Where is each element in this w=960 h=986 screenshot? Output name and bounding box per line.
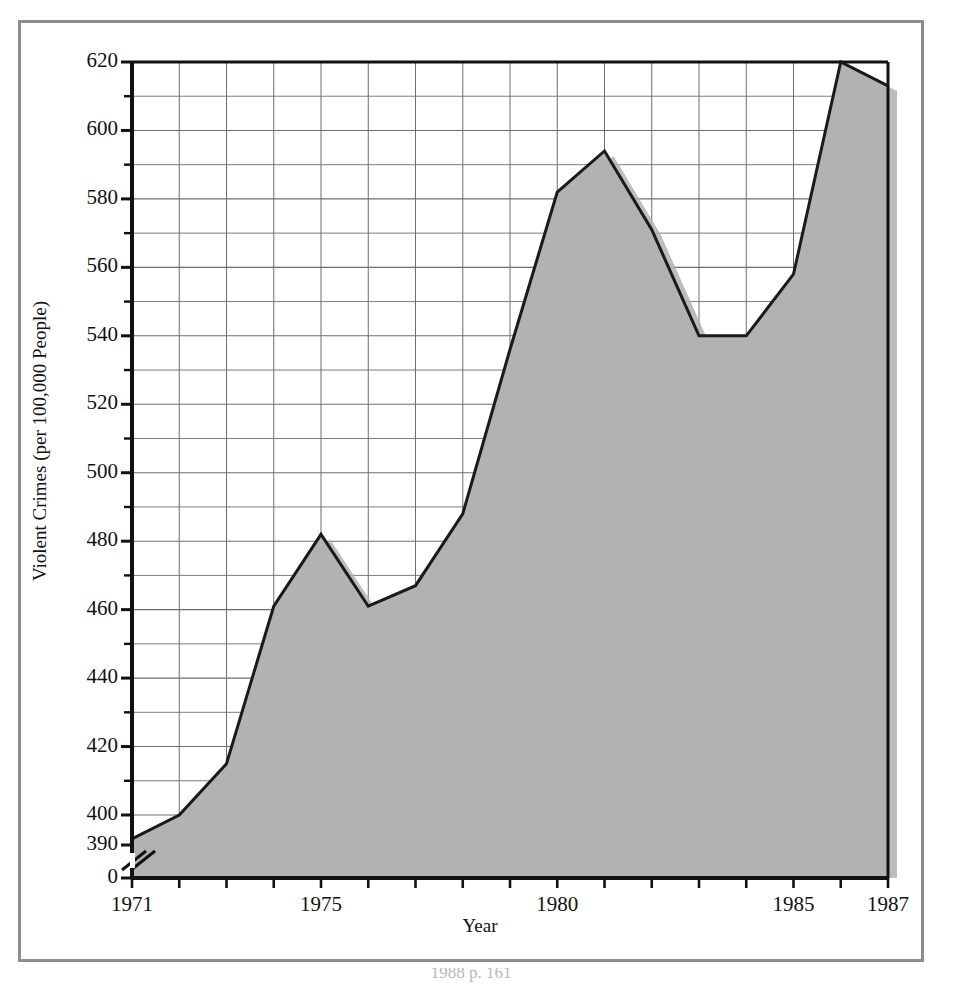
x-tick-label: 1985 xyxy=(739,892,849,917)
y-tick-label: 480 xyxy=(50,527,118,552)
caption-strip: 1988 p. 161 xyxy=(18,968,924,986)
y-tick-label: 540 xyxy=(50,322,118,347)
x-tick-label: 1987 xyxy=(833,892,943,917)
y-tick-label: 420 xyxy=(50,733,118,758)
y-axis-title: Violent Crimes (per 100,000 People) xyxy=(29,231,51,651)
y-tick-label: 0 xyxy=(50,864,118,889)
x-axis-title: Year xyxy=(0,915,960,937)
y-tick-label: 520 xyxy=(50,390,118,415)
y-tick-label: 390 xyxy=(50,831,118,856)
y-tick-label: 500 xyxy=(50,459,118,484)
x-tick-label: 1971 xyxy=(77,892,187,917)
violent-crimes-area-chart xyxy=(0,0,960,986)
y-tick-label: 620 xyxy=(50,48,118,73)
y-tick-label: 600 xyxy=(50,116,118,141)
caption-text: 1988 p. 161 xyxy=(18,968,924,978)
y-tick-label: 440 xyxy=(50,664,118,689)
x-tick-label: 1975 xyxy=(266,892,376,917)
y-tick-label: 400 xyxy=(50,801,118,826)
y-tick-label: 560 xyxy=(50,253,118,278)
y-tick-label: 460 xyxy=(50,596,118,621)
y-tick-label: 580 xyxy=(50,185,118,210)
chart-area: 6206005805605405205004804604404204003900… xyxy=(0,0,960,986)
x-tick-label: 1980 xyxy=(502,892,612,917)
